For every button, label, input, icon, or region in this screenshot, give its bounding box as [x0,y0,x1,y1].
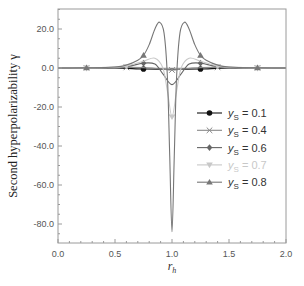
y-tick-label: 0.0 [41,63,54,73]
legend-label: yS = 0.8 [227,176,267,191]
legend-label: yS = 0.1 [227,107,267,122]
legend-item: yS = 0.7 [197,159,267,174]
x-axis-label: rh [168,259,177,275]
y-axis-label: Second hyperpolarizability γ [6,54,20,198]
x-tick-label: 1.5 [223,249,236,259]
series-line [58,63,286,85]
legend-item: yS = 0.1 [197,107,267,122]
triangle-up-marker-icon [140,52,147,58]
y-tick-label: 20.0 [36,24,54,34]
y-tick-label: -20.0 [33,102,54,112]
legend-label: yS = 0.7 [227,159,267,174]
legend-item: yS = 0.6 [197,142,267,157]
x-tick-label: 0.0 [52,249,65,259]
y-tick-label: -40.0 [33,141,54,151]
triangle-up-marker-icon [197,52,204,58]
series-ys-0-1 [58,66,286,72]
x-tick-label: 1.0 [166,249,179,259]
x-axis: 0.00.51.01.52.0 [52,239,293,259]
x-tick-label: 0.5 [109,249,122,259]
legend-label: yS = 0.4 [227,124,267,139]
y-tick-label: -80.0 [33,219,54,229]
triangle-down-marker-icon [169,114,176,120]
circle-marker-icon [207,110,213,116]
legend-item: yS = 0.8 [197,176,267,191]
chart: 0.00.51.01.52.0 20.00.0-20.0-40.0-60.0-8… [0,0,304,286]
legend: yS = 0.1yS = 0.4yS = 0.6yS = 0.7yS = 0.8 [197,107,267,191]
legend-label: yS = 0.6 [227,142,267,157]
diamond-marker-icon [207,144,213,151]
series-ys-0-6 [58,60,286,85]
legend-item: yS = 0.4 [197,124,267,139]
y-tick-label: -60.0 [33,180,54,190]
x-tick-label: 2.0 [280,249,293,259]
